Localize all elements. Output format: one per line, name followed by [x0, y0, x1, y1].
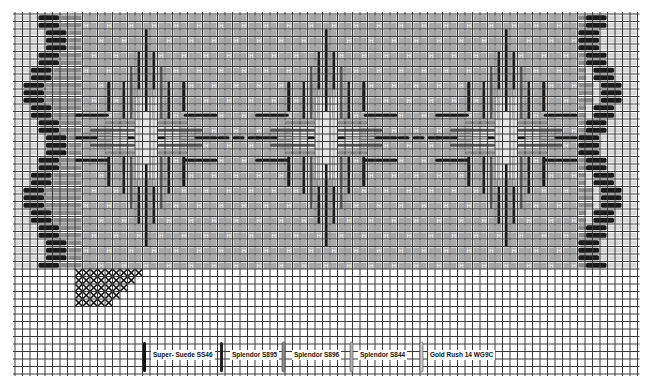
field-stitch — [459, 240, 465, 247]
field-stitch — [571, 45, 577, 52]
accent-stitch: H — [256, 37, 261, 44]
field-stitch — [466, 53, 472, 60]
field-stitch — [549, 248, 555, 255]
field-stitch — [114, 30, 120, 37]
field-stitch — [301, 45, 307, 52]
field-stitch — [451, 255, 457, 262]
field-stitch — [249, 90, 255, 97]
accent-stitch: H — [234, 217, 239, 224]
accent-stitch: H — [354, 112, 359, 119]
field-stitch — [414, 120, 420, 127]
field-stitch — [91, 120, 97, 127]
field-stitch — [271, 195, 277, 202]
field-stitch — [189, 45, 195, 52]
field-stitch — [429, 75, 435, 82]
accent-stitch: H — [271, 97, 276, 104]
field-stitch — [406, 30, 412, 37]
field-stitch — [204, 210, 210, 217]
accent-stitch: H — [391, 172, 396, 179]
accent-stitch: H — [444, 67, 449, 74]
field-stitch — [286, 45, 292, 52]
field-stitch — [564, 105, 570, 112]
field-stitch — [444, 120, 450, 127]
field-stitch — [541, 248, 547, 255]
field-stitch — [549, 75, 555, 82]
field-stitch — [534, 195, 540, 202]
field-stitch — [241, 90, 247, 97]
accent-stitch: H — [361, 52, 366, 59]
accent-stitch: H — [211, 37, 216, 44]
field-stitch — [219, 120, 225, 127]
field-stitch — [429, 195, 435, 202]
field-stitch — [414, 53, 420, 60]
field-stitch — [84, 165, 90, 172]
field-stitch — [376, 173, 382, 180]
field-stitch — [376, 218, 382, 225]
field-stitch — [309, 225, 315, 232]
field-stitch — [256, 15, 262, 22]
accent-stitch: H — [114, 232, 119, 239]
field-stitch — [91, 203, 97, 210]
field-stitch — [481, 255, 487, 262]
field-stitch — [196, 30, 202, 37]
field-stitch — [159, 45, 165, 52]
field-stitch — [294, 203, 300, 210]
field-stitch — [294, 263, 300, 270]
field-stitch — [114, 165, 120, 172]
field-stitch — [339, 255, 345, 262]
field-stitch — [294, 105, 300, 112]
accent-stitch: H — [489, 22, 494, 29]
field-stitch — [249, 240, 255, 247]
field-stitch — [376, 30, 382, 37]
field-stitch — [346, 75, 352, 82]
accent-stitch: H — [256, 127, 261, 134]
accent-stitch: H — [316, 232, 321, 239]
field-stitch — [534, 30, 540, 37]
field-stitch — [526, 45, 532, 52]
accent-stitch: H — [121, 262, 126, 269]
field-stitch — [384, 248, 390, 255]
accent-stitch: H — [459, 262, 464, 269]
field-stitch — [106, 30, 112, 37]
field-stitch — [219, 45, 225, 52]
field-stitch — [519, 45, 525, 52]
field-stitch — [234, 158, 240, 165]
field-stitch — [571, 203, 577, 210]
field-stitch — [204, 248, 210, 255]
field-stitch — [384, 23, 390, 30]
field-stitch — [91, 23, 97, 30]
field-stitch — [444, 225, 450, 232]
field-stitch — [234, 188, 240, 195]
field-stitch — [459, 105, 465, 112]
field-stitch — [541, 45, 547, 52]
accent-stitch: H — [279, 172, 284, 179]
field-stitch — [256, 60, 262, 67]
field-stitch — [489, 233, 495, 240]
field-stitch — [279, 23, 285, 30]
accent-stitch: H — [264, 22, 269, 29]
field-stitch — [256, 105, 262, 112]
field-stitch — [346, 248, 352, 255]
field-stitch — [534, 263, 540, 270]
field-stitch — [279, 15, 285, 22]
field-stitch — [511, 240, 517, 247]
field-stitch — [466, 75, 472, 82]
field-stitch — [451, 60, 457, 67]
field-stitch — [271, 38, 277, 45]
field-stitch — [421, 165, 427, 172]
field-stitch — [241, 218, 247, 225]
field-stitch — [99, 53, 105, 60]
field-stitch — [466, 60, 472, 67]
field-stitch — [474, 30, 480, 37]
field-stitch — [571, 195, 577, 202]
field-stitch — [84, 30, 90, 37]
field-stitch — [256, 203, 262, 210]
accent-stitch: H — [564, 187, 569, 194]
field-stitch — [219, 30, 225, 37]
field-stitch — [421, 173, 427, 180]
field-stitch — [391, 15, 397, 22]
field-stitch — [534, 75, 540, 82]
field-stitch — [339, 263, 345, 270]
field-stitch — [361, 15, 367, 22]
field-stitch — [421, 225, 427, 232]
